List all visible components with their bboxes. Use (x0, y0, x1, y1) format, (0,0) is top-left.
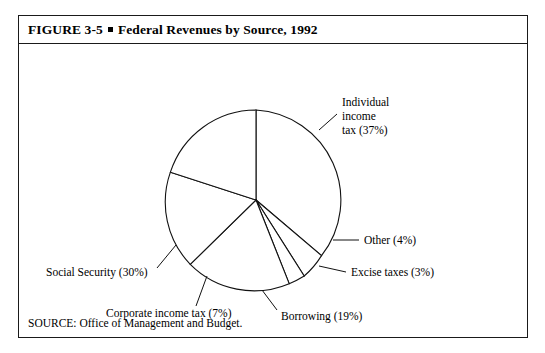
leader-line-excise-taxes (319, 266, 346, 272)
pie-label-excise-taxes: Excise taxes (3%) (351, 266, 434, 279)
square-bullet-icon (108, 27, 113, 32)
pie-label-other: Other (4%) (364, 234, 416, 247)
pie-label-individual-income-tax-line3: tax (37%) (342, 124, 388, 137)
figure-number: FIGURE 3-5 (28, 22, 103, 37)
leader-line-borrowing (262, 290, 277, 310)
leader-line-individual-income-tax (319, 114, 337, 130)
pie-label-individual-income-tax-line2: income (342, 110, 376, 122)
pie-label-individual-income-tax-line1: Individual (342, 96, 389, 108)
figure-header: FIGURE 3-5Federal Revenues by Source, 19… (19, 16, 527, 44)
figure-title: FIGURE 3-5Federal Revenues by Source, 19… (19, 22, 318, 38)
figure-source: SOURCE: Office of Management and Budget. (28, 317, 242, 329)
pie-chart: Individual income tax (37%) Other (4%) E… (19, 44, 526, 336)
figure-title-text: Federal Revenues by Source, 1992 (118, 22, 318, 37)
leader-line-corporate-income-tax (196, 276, 207, 306)
figure-body: Individual income tax (37%) Other (4%) E… (19, 44, 527, 337)
pie-label-social-security: Social Security (30%) (46, 266, 148, 279)
figure-frame: FIGURE 3-5Federal Revenues by Source, 19… (18, 15, 528, 338)
leader-line-social-security (157, 245, 176, 268)
pie-label-borrowing: Borrowing (19%) (281, 310, 363, 323)
